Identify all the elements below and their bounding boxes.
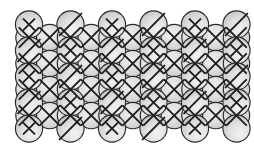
lattice-figure (0, 0, 254, 154)
lattice-circle (223, 115, 250, 142)
lattice-canvas (0, 0, 254, 154)
